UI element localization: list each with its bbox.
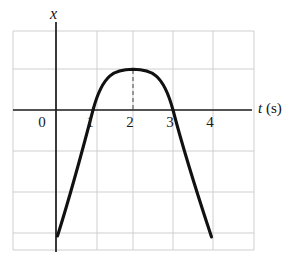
tick-label-2: 2 bbox=[122, 114, 138, 131]
tick-label-3: 3 bbox=[162, 114, 178, 131]
graph-figure: x t (s) 0 1 2 3 4 bbox=[0, 0, 295, 256]
tick-label-0: 0 bbox=[34, 114, 50, 131]
tick-label-1: 1 bbox=[82, 114, 98, 131]
x-axis-label-variable: t bbox=[258, 100, 262, 116]
tick-label-4: 4 bbox=[202, 114, 218, 131]
x-axis-label: t (s) bbox=[258, 100, 282, 117]
x-axis-label-unit: (s) bbox=[266, 100, 282, 116]
y-axis-label: x bbox=[50, 5, 58, 23]
